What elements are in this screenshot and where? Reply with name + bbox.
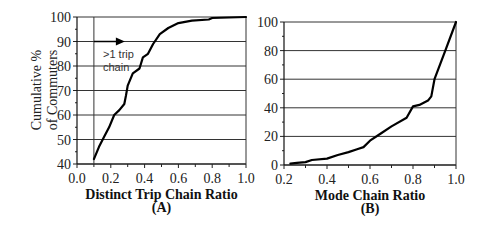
chart-b: 0204060801000.20.40.60.81.0Mode Chain Ra… bbox=[257, 15, 465, 217]
figure: 4050607080901000.00.20.40.60.81.0Distinc… bbox=[0, 0, 492, 228]
x-tick-label: 0.0 bbox=[68, 171, 86, 186]
y-tick-label: 0 bbox=[271, 158, 278, 173]
x-tick-label: 1.0 bbox=[447, 172, 465, 187]
y-tick-label: 40 bbox=[57, 157, 71, 172]
annotation-arrow-icon bbox=[116, 38, 125, 46]
x-tick-label: 0.6 bbox=[361, 172, 379, 187]
y-tick-label: 80 bbox=[264, 44, 278, 59]
y-tick-label: 100 bbox=[50, 10, 71, 25]
annotation-text-line-2: chain bbox=[103, 61, 129, 73]
x-tick-label: 0.2 bbox=[102, 171, 120, 186]
panel-label: (B) bbox=[361, 201, 380, 217]
y-tick-label: 20 bbox=[264, 129, 278, 144]
x-tick-label: 1.0 bbox=[237, 171, 255, 186]
y-axis-label: Cumulative %of Commuters bbox=[29, 49, 60, 130]
y-tick-label: 60 bbox=[264, 72, 278, 87]
x-tick-label: 0.4 bbox=[318, 172, 336, 187]
y-axis-label-line-1: Cumulative % bbox=[29, 49, 44, 130]
data-line bbox=[290, 22, 456, 164]
x-tick-label: 0.2 bbox=[275, 172, 293, 187]
annotation-text-line-1: >1 trip bbox=[103, 48, 134, 60]
y-tick-label: 50 bbox=[57, 133, 71, 148]
x-tick-label: 0.8 bbox=[203, 171, 221, 186]
y-axis-label-line-2: of Commuters bbox=[45, 50, 60, 131]
x-tick-label: 0.8 bbox=[404, 172, 422, 187]
y-tick-label: 90 bbox=[57, 35, 71, 50]
y-tick-label: 100 bbox=[257, 15, 278, 30]
x-tick-label: 0.4 bbox=[136, 171, 154, 186]
panel-label: (A) bbox=[152, 200, 172, 216]
x-tick-label: 0.6 bbox=[170, 171, 188, 186]
y-tick-label: 40 bbox=[264, 101, 278, 116]
chart-a: 4050607080901000.00.20.40.60.81.0Distinc… bbox=[29, 10, 255, 216]
